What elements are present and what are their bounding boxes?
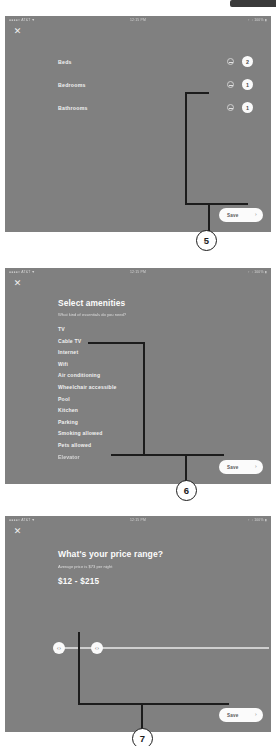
list-item[interactable]: Kitchen: [58, 405, 178, 417]
counter-label: Bathrooms: [58, 105, 88, 111]
annotated-screenshot-sheet: ●●●●○ AT&T ▼ 12:15 PM ↑ ↓ 100% ▮ ✕ Beds …: [0, 0, 276, 746]
page-title: What's your price range?: [58, 549, 163, 559]
status-bar-time: 12:15 PM: [130, 268, 146, 276]
chevron-right-icon: ›: [255, 464, 257, 470]
price-range-value: $12 - $215: [58, 577, 163, 586]
list-item[interactable]: Internet: [58, 347, 178, 359]
screen-rooms-and-beds: ●●●●○ AT&T ▼ 12:15 PM ↑ ↓ 100% ▮ ✕ Beds …: [5, 16, 271, 232]
save-button[interactable]: Save ›: [219, 208, 263, 222]
list-item[interactable]: Wheelchair accessible: [58, 382, 178, 394]
page-subtitle: What kind of essentials do you need?: [58, 312, 126, 317]
list-item[interactable]: Pool: [58, 394, 178, 406]
counter-controls: 1: [227, 102, 254, 113]
status-bar-right: ↑ ↓ 100% ▮: [248, 516, 267, 524]
counter-row-bedrooms: Bedrooms 1: [5, 73, 271, 96]
decrement-icon[interactable]: [227, 58, 235, 66]
annotation-line: [111, 454, 224, 456]
count-value: 2: [242, 56, 253, 67]
page-subtitle: Average price is $73 per night: [58, 564, 163, 569]
annotation-line: [141, 705, 143, 729]
status-bar: ●●●●○ AT&T ▼ 12:15 PM ↑ ↓ 100% ▮: [5, 516, 271, 524]
close-icon[interactable]: ✕: [13, 27, 22, 36]
save-button[interactable]: Save ›: [219, 460, 263, 474]
status-bar: ●●●●○ AT&T ▼ 12:15 PM ↑ ↓ 100% ▮: [5, 16, 271, 24]
counter-row-beds: Beds 2: [5, 50, 271, 73]
status-bar: ●●●●○ AT&T ▼ 12:15 PM ↑ ↓ 100% ▮: [5, 268, 271, 276]
screen-select-amenities: ●●●●○ AT&T ▼ 12:15 PM ↑ ↓ 100% ▮ ✕ Selec…: [5, 268, 271, 484]
counter-row-bathrooms: Bathrooms 1: [5, 96, 271, 119]
counter-controls: 2: [227, 56, 254, 67]
close-icon[interactable]: ✕: [13, 279, 22, 288]
list-item[interactable]: Smoking allowed: [58, 428, 178, 440]
save-button-label: Save: [227, 213, 239, 218]
annotation-line: [208, 205, 210, 231]
slider-handle-max[interactable]: ‹›: [91, 642, 103, 654]
count-value: 1: [242, 79, 253, 90]
annotation-marker-7: 7: [132, 728, 153, 746]
list-item[interactable]: Parking: [58, 417, 178, 429]
chevron-right-icon: ›: [255, 212, 257, 218]
screen-price-range: ●●●●○ AT&T ▼ 12:15 PM ↑ ↓ 100% ▮ ✕ What'…: [5, 516, 271, 732]
decrement-icon[interactable]: [227, 81, 235, 89]
annotation-marker-6: 6: [176, 480, 197, 501]
list-item[interactable]: Pets allowed: [58, 440, 178, 452]
save-button[interactable]: Save ›: [219, 708, 263, 722]
annotation-line: [185, 92, 209, 94]
count-value: 1: [242, 102, 253, 113]
list-item[interactable]: Wifi: [58, 359, 178, 371]
annotation-line: [185, 92, 187, 205]
counter-label: Bedrooms: [58, 82, 86, 88]
cropped-tab-marker: [230, 0, 276, 7]
amenities-list: TV Cable TV Internet Wifi Air conditioni…: [58, 324, 178, 463]
status-bar-left: ●●●●○ AT&T ▼: [9, 268, 35, 276]
annotation-marker-5: 5: [196, 230, 217, 251]
amenities-header: Select amenities What kind of essentials…: [58, 298, 126, 317]
annotation-line: [185, 203, 248, 205]
status-bar-right: ↑ ↓ 100% ▮: [248, 268, 267, 276]
counter-label: Beds: [58, 59, 72, 65]
price-range-slider[interactable]: ‹› ‹›: [53, 642, 269, 654]
annotation-line: [143, 342, 145, 456]
counter-controls: 1: [227, 79, 254, 90]
counter-list: Beds 2 Bedrooms 1 Bathrooms 1: [5, 50, 271, 119]
status-bar-time: 12:15 PM: [130, 16, 146, 24]
close-icon[interactable]: ✕: [13, 527, 22, 536]
save-button-label: Save: [227, 713, 239, 718]
annotation-line: [78, 703, 229, 705]
chevron-right-icon: ›: [255, 712, 257, 718]
list-item[interactable]: TV: [58, 324, 178, 336]
save-button-label: Save: [227, 465, 239, 470]
price-header: What's your price range? Average price i…: [58, 549, 163, 586]
decrement-icon[interactable]: [227, 104, 235, 112]
status-bar-left: ●●●●○ AT&T ▼: [9, 516, 35, 524]
list-item[interactable]: Air conditioning: [58, 370, 178, 382]
annotation-line: [78, 632, 80, 705]
slider-handle-min[interactable]: ‹›: [53, 642, 65, 654]
status-bar-time: 12:15 PM: [130, 516, 146, 524]
status-bar-left: ●●●●○ AT&T ▼: [9, 16, 35, 24]
status-bar-right: ↑ ↓ 100% ▮: [248, 16, 267, 24]
annotation-line: [88, 342, 145, 344]
page-title: Select amenities: [58, 298, 126, 308]
annotation-line: [185, 456, 187, 481]
